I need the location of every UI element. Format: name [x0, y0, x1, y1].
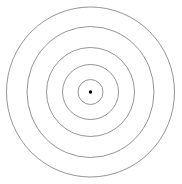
figure-root — [0, 0, 182, 184]
concentric-circles-figure — [0, 0, 182, 184]
center-dot-marker — [89, 90, 92, 93]
